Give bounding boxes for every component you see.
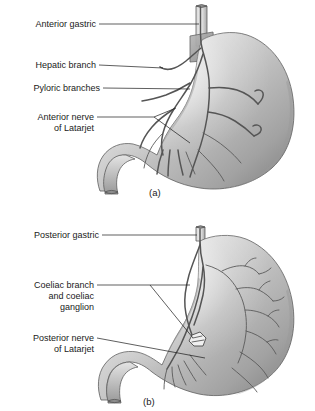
label-posterior-gastric: Posterior gastric bbox=[34, 230, 100, 240]
panel-a-labels: Anterior gastric Hepatic branch Pyloric … bbox=[33, 19, 100, 133]
oesophagus-cut-end bbox=[196, 5, 207, 8]
label-coeliac-line3: ganglion bbox=[60, 302, 94, 312]
duodenum-posterior-cut-end bbox=[108, 399, 121, 402]
label-anterior-latarjet-line2: of Latarjet bbox=[54, 123, 95, 133]
leader-coeliac bbox=[97, 285, 193, 338]
stomach-anterior bbox=[97, 5, 294, 195]
caption-panel-b: (b) bbox=[143, 396, 155, 407]
panel-b-labels: Posterior gastric Coeliac branch and coe… bbox=[33, 230, 100, 354]
label-coeliac-line2: and coeliac bbox=[48, 291, 94, 301]
label-pyloric-branches: Pyloric branches bbox=[33, 83, 100, 93]
oesophagus-posterior-cut-end bbox=[196, 226, 205, 229]
label-coeliac-line1: Coeliac branch bbox=[34, 280, 94, 290]
anatomy-figure: Anterior gastric Hepatic branch Pyloric … bbox=[0, 0, 315, 411]
label-anterior-gastric: Anterior gastric bbox=[35, 19, 96, 29]
caption-panel-a: (a) bbox=[149, 187, 161, 198]
label-posterior-latarjet-line2: of Latarjet bbox=[54, 344, 95, 354]
panel-b: Posterior gastric Coeliac branch and coe… bbox=[33, 226, 294, 407]
pyloric-branch-1 bbox=[142, 83, 190, 101]
duodenum-cut-end bbox=[105, 190, 118, 193]
leader-pyloric-branches bbox=[103, 88, 190, 89]
label-hepatic-branch: Hepatic branch bbox=[35, 60, 96, 70]
panel-a: Anterior gastric Hepatic branch Pyloric … bbox=[33, 5, 294, 199]
label-anterior-latarjet-line1: Anterior nerve bbox=[37, 112, 94, 122]
leader-hepatic-branch bbox=[99, 65, 163, 68]
label-posterior-latarjet-line1: Posterior nerve bbox=[33, 333, 94, 343]
